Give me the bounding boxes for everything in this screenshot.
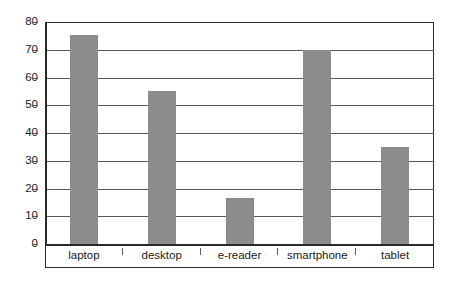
x-tick-label-text: smartphone <box>287 249 348 261</box>
gridline-40 <box>45 133 434 134</box>
y-axis-tick-labels: 80706050403020100 <box>0 22 38 244</box>
y-tick-mark-0 <box>32 244 38 245</box>
bar-chart: 80706050403020100 laptopdesktope-readers… <box>0 0 458 282</box>
x-tick-label-text: e-reader <box>218 249 261 261</box>
y-tick-mark-30 <box>32 161 38 162</box>
y-tick-mark-70 <box>32 50 38 51</box>
y-tick-mark-60 <box>32 78 38 79</box>
plot-area <box>45 22 434 244</box>
bar-e-reader[interactable] <box>226 198 254 244</box>
y-tick-mark-40 <box>32 133 38 134</box>
gridline-70 <box>45 50 434 51</box>
bar-desktop[interactable] <box>148 91 176 244</box>
gridline-20 <box>45 189 434 190</box>
gridline-60 <box>45 78 434 79</box>
x-tick-label-desktop: desktop <box>123 250 201 262</box>
x-tick-label-smartphone: smartphone <box>278 250 356 262</box>
gridline-50 <box>45 105 434 106</box>
bar-laptop[interactable] <box>70 35 98 245</box>
x-tick-label-tablet: tablet <box>356 250 434 262</box>
bar-smartphone[interactable] <box>303 50 331 244</box>
y-axis-line <box>45 22 47 244</box>
bar-tablet[interactable] <box>381 147 409 244</box>
x-tick-label-text: laptop <box>68 249 99 261</box>
y-tick-mark-20 <box>32 189 38 190</box>
x-tick-label-e-reader: e-reader <box>201 250 279 262</box>
y-tick-mark-80 <box>32 22 38 23</box>
y-tick-mark-10 <box>32 216 38 217</box>
x-axis-category-labels: laptopdesktope-readersmartphonetablet <box>45 244 434 268</box>
x-tick-label-text: desktop <box>142 249 182 261</box>
gridline-30 <box>45 161 434 162</box>
y-tick-mark-50 <box>32 105 38 106</box>
x-tick-label-laptop: laptop <box>45 250 123 262</box>
x-tick-label-text: tablet <box>381 249 409 261</box>
